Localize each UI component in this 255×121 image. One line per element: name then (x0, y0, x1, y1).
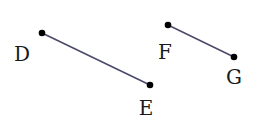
label-e: E (139, 96, 154, 120)
label-f: F (158, 40, 172, 64)
label-g: G (226, 65, 242, 89)
point-g (231, 54, 238, 61)
diagram-canvas: D E F G (0, 0, 255, 121)
point-e (147, 82, 154, 89)
segment-fg (168, 25, 234, 57)
segment-de (42, 33, 150, 85)
point-d (39, 30, 46, 37)
segments-figure: D E F G (0, 0, 255, 121)
point-f (165, 22, 172, 29)
label-d: D (14, 42, 30, 66)
